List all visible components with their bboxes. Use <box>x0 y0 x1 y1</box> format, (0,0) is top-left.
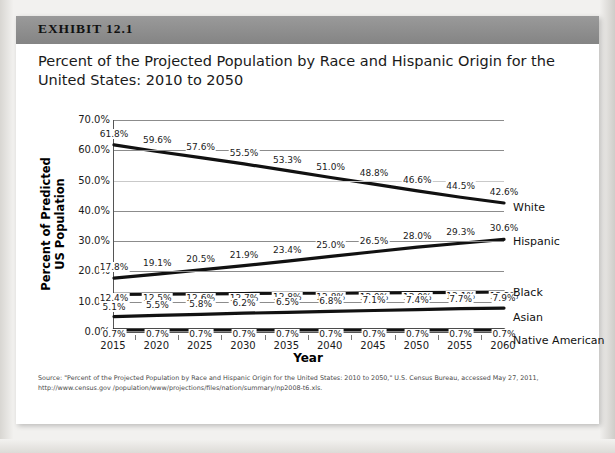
y-tick-label: 70.0% <box>68 114 110 125</box>
data-label: 6.2% <box>232 298 257 308</box>
page-edge-shadow-left <box>0 0 14 453</box>
x-tick-label: 2050 <box>404 340 429 351</box>
chart-title: Percent of the Projected Population by R… <box>38 52 583 90</box>
series-label-black: Black <box>513 286 543 299</box>
series-label-native-american: Native American <box>513 334 604 347</box>
source-note: Source: "Percent of the Projected Popula… <box>38 374 588 393</box>
x-tick-label: 2060 <box>490 340 515 351</box>
data-label: 20.5% <box>185 254 216 264</box>
x-tick-label: 2040 <box>317 340 342 351</box>
data-label: 6.5% <box>275 297 300 307</box>
gridline <box>114 271 504 272</box>
x-tick-mark <box>395 335 396 340</box>
gridline <box>114 211 504 212</box>
series-line-asian <box>114 308 504 316</box>
x-tick-label: 2015 <box>100 340 125 351</box>
series-label-hispanic: Hispanic <box>513 235 560 248</box>
x-tick-mark <box>351 335 352 340</box>
data-label: 30.6% <box>489 223 520 233</box>
gridline <box>114 120 504 121</box>
data-label: 23.4% <box>272 245 303 255</box>
x-tick-mark <box>308 335 309 340</box>
x-tick-mark <box>221 335 222 340</box>
data-label: 17.8% <box>99 262 130 272</box>
exhibit-label: EXHIBIT 12.1 <box>38 21 133 37</box>
scanned-page-background: EXHIBIT 12.1 Percent of the Projected Po… <box>0 0 615 453</box>
chart-region: Percent of Predicted US Population 0.0%1… <box>16 102 599 367</box>
y-tick-label: 40.0% <box>68 205 110 216</box>
series-label-asian: Asian <box>513 311 543 324</box>
data-label: 42.6% <box>489 187 520 197</box>
data-label: 26.5% <box>359 236 390 246</box>
y-tick-label: 30.0% <box>68 235 110 246</box>
x-tick-mark <box>265 335 266 340</box>
data-label: 7.1% <box>362 295 387 305</box>
data-label: 46.6% <box>402 175 433 185</box>
data-label: 59.6% <box>142 135 173 145</box>
data-label: 51.0% <box>315 162 346 172</box>
y-tick-label: 60.0% <box>68 144 110 155</box>
data-label: 5.1% <box>102 302 127 312</box>
x-tick-label: 2055 <box>447 340 472 351</box>
x-tick-label: 2020 <box>144 340 169 351</box>
x-tick-mark <box>135 335 136 340</box>
x-tick-label: 2025 <box>187 340 212 351</box>
data-label: 5.5% <box>145 300 170 310</box>
gridline <box>114 241 504 242</box>
exhibit-card: EXHIBIT 12.1 Percent of the Projected Po… <box>16 16 599 424</box>
x-tick-mark <box>438 335 439 340</box>
plot-area: 61.8%59.6%57.6%55.5%53.3%51.0%48.8%46.6%… <box>113 120 504 333</box>
series-label-white: White <box>513 201 545 214</box>
data-label: 57.6% <box>185 142 216 152</box>
x-axis-title: Year <box>113 351 503 365</box>
data-label: 44.5% <box>445 181 476 191</box>
y-tick-label: 50.0% <box>68 175 110 186</box>
data-label: 48.8% <box>359 168 390 178</box>
data-label: 28.0% <box>402 231 433 241</box>
data-label: 25.0% <box>315 240 346 250</box>
data-label: 61.8% <box>99 129 130 139</box>
source-line-2: /population/www/projections/files/nation… <box>113 384 323 392</box>
x-tick-label: 2035 <box>274 340 299 351</box>
data-label: 7.7% <box>448 294 473 304</box>
gridline <box>114 150 504 151</box>
data-label: 6.8% <box>318 296 343 306</box>
x-tick-mark <box>178 335 179 340</box>
data-label: 29.3% <box>445 227 476 237</box>
x-tick-label: 2030 <box>230 340 255 351</box>
data-label: 7.4% <box>405 295 430 305</box>
x-axis-tick-labels: 2015202020252030203520402045205020552060 <box>113 335 503 349</box>
x-tick-label: 2045 <box>360 340 385 351</box>
page-edge-shadow-right <box>599 0 615 453</box>
series-line-white <box>114 145 504 203</box>
x-tick-mark <box>481 335 482 340</box>
data-label: 5.8% <box>188 299 213 309</box>
data-label: 55.5% <box>229 148 260 158</box>
page-edge-shadow-bottom <box>0 439 615 453</box>
data-label: 19.1% <box>142 258 173 268</box>
data-label: 21.9% <box>229 250 260 260</box>
data-label: 53.3% <box>272 155 303 165</box>
